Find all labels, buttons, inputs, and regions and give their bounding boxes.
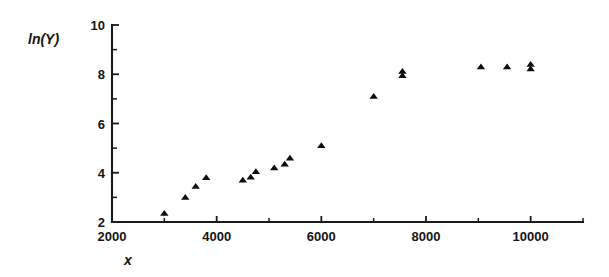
data-point-marker xyxy=(181,194,189,200)
x-axis-tick-label: 6000 xyxy=(307,229,336,244)
data-point-marker xyxy=(252,168,260,174)
x-axis-tick-label: 8000 xyxy=(412,229,441,244)
data-point-marker xyxy=(281,161,289,167)
x-axis-tick-label: 2000 xyxy=(98,229,127,244)
data-point-group xyxy=(160,61,535,216)
axis-group xyxy=(112,25,583,222)
data-point-marker xyxy=(239,177,247,183)
data-point-marker xyxy=(526,61,534,67)
data-point-marker xyxy=(270,164,278,170)
y-axis-title: ln(Y) xyxy=(28,31,59,47)
data-point-marker xyxy=(286,155,294,161)
data-point-marker xyxy=(202,174,210,180)
data-point-marker xyxy=(503,64,511,70)
tick-label-group: 200040006000800010000246810 xyxy=(91,18,549,244)
tick-group xyxy=(112,25,583,222)
y-axis-tick-label: 10 xyxy=(91,18,105,33)
scatter-plot-figure: 200040006000800010000246810 ln(Y) x xyxy=(0,0,609,277)
data-point-marker xyxy=(192,183,200,189)
y-axis-tick-label: 6 xyxy=(98,117,105,132)
x-axis-tick-label: 10000 xyxy=(513,229,549,244)
y-axis-tick-label: 4 xyxy=(98,166,106,181)
x-axis-title: x xyxy=(123,252,133,268)
data-point-marker xyxy=(398,68,406,74)
data-point-marker xyxy=(246,174,254,180)
data-point-marker xyxy=(160,210,168,216)
data-point-marker xyxy=(477,64,485,70)
y-axis-tick-label: 8 xyxy=(98,67,105,82)
y-axis-tick-label: 2 xyxy=(98,215,105,230)
data-point-marker xyxy=(369,93,377,99)
plot-canvas: 200040006000800010000246810 ln(Y) x xyxy=(0,0,609,277)
x-axis-tick-label: 4000 xyxy=(202,229,231,244)
data-point-marker xyxy=(317,142,325,148)
